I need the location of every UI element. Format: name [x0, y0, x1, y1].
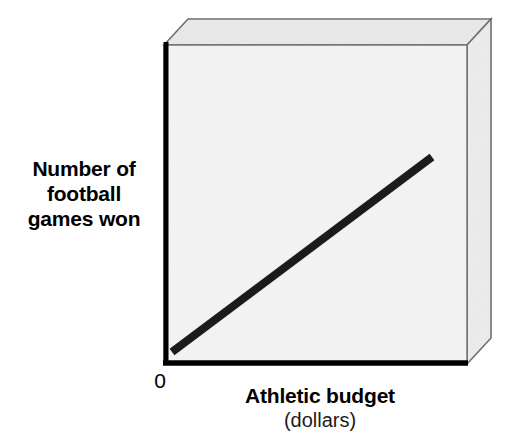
x-axis-subtitle: (dollars) [175, 408, 465, 432]
y-axis-title: Number of football games won [10, 156, 158, 231]
x-axis-title: Athletic budget [175, 383, 465, 408]
figure-container: Number of football games won Athletic bu… [0, 0, 518, 446]
origin-label: 0 [148, 369, 172, 393]
